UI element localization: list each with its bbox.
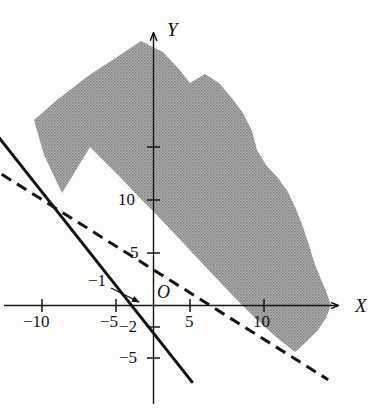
y-tick-label-5: 5 [130, 244, 139, 261]
x-tick-label--5: −5 [100, 313, 118, 330]
x-intercept-callout-label: −1 [88, 272, 106, 289]
x-tick-label--10: −10 [23, 313, 50, 330]
x-tick-label-5: 5 [185, 313, 194, 330]
origin-label: O [157, 283, 170, 301]
callout-arrow-group [111, 288, 139, 302]
x-tick-label-10: 10 [253, 313, 270, 330]
callout-leader-line [111, 288, 139, 302]
y-tick-label--5: −5 [119, 349, 137, 366]
coordinate-plot [0, 0, 384, 409]
y-axis-label: Y [167, 20, 178, 39]
y-tick-label-10: 10 [118, 191, 135, 208]
figure-root: Y X O −10 −5 5 10 10 5 −2 −5 −1 [0, 0, 384, 409]
y-tick-label--2: −2 [119, 318, 137, 335]
x-axis-label: X [355, 296, 367, 315]
